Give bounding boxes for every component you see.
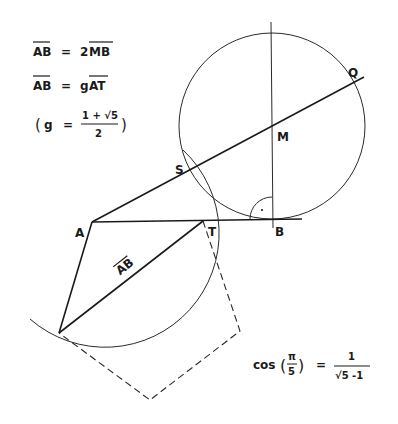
svg-text:AB: AB <box>113 256 136 278</box>
svg-text:AT: AT <box>89 79 106 93</box>
svg-text:=: = <box>316 358 326 372</box>
svg-text:cos: cos <box>253 358 276 372</box>
label-a: A <box>75 226 85 240</box>
formula-ab-2mb: AB = 2 MB <box>33 42 113 59</box>
label-m: M <box>277 130 289 144</box>
svg-text:=: = <box>63 118 73 132</box>
label-b: B <box>275 225 284 239</box>
formula-ab-gat: AB = g AT <box>33 76 108 93</box>
label-s: S <box>175 163 184 177</box>
segment-label-ab: AB <box>113 256 136 278</box>
label-q: Q <box>348 66 358 80</box>
svg-text:π: π <box>288 351 296 362</box>
right-angle-mark <box>250 197 272 219</box>
svg-text:AB: AB <box>33 79 51 93</box>
svg-text:5: 5 <box>288 366 295 377</box>
svg-text:1: 1 <box>348 351 355 362</box>
line-a-q <box>92 77 364 222</box>
line-a-b <box>92 219 302 222</box>
svg-text:=: = <box>61 79 71 93</box>
svg-text:2: 2 <box>95 128 102 139</box>
svg-text:g: g <box>80 79 89 93</box>
diagram-canvas: A B M Q S T AB AB = 2 MB AB = g AT ( g =… <box>0 0 398 424</box>
svg-text:): ) <box>298 356 304 375</box>
svg-text:): ) <box>121 116 127 134</box>
svg-text:(: ( <box>35 116 41 134</box>
dashed-pentagon <box>59 221 240 400</box>
svg-text:2: 2 <box>80 45 88 59</box>
svg-text:(: ( <box>280 356 286 375</box>
formula-cos-pi-5: cos ( π 5 ) = 1 √5 -1 <box>253 351 370 381</box>
geometry-figure: A B M Q S T AB AB = 2 MB AB = g AT ( g =… <box>0 0 398 424</box>
right-angle-dot <box>261 209 263 211</box>
label-t: T <box>208 225 217 239</box>
arc-centered-a <box>30 150 219 347</box>
formula-golden-ratio: ( g = 1 + √5 2 ) <box>35 110 127 139</box>
svg-text:MB: MB <box>89 45 110 59</box>
svg-text:=: = <box>61 45 71 59</box>
svg-text:√5 -1: √5 -1 <box>335 370 363 381</box>
svg-text:g: g <box>44 118 53 132</box>
svg-text:1 + √5: 1 + √5 <box>82 110 118 121</box>
svg-text:AB: AB <box>33 45 51 59</box>
